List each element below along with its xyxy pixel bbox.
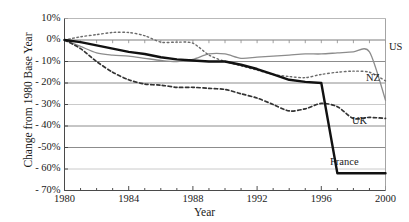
y-tick-label: - 10% <box>15 55 61 66</box>
series-label-france: France <box>330 156 359 167</box>
line-chart <box>0 0 409 222</box>
x-tick-label: 1996 <box>301 193 341 204</box>
y-tick-label: - 40% <box>15 119 61 130</box>
series-line-nz <box>65 32 386 81</box>
data-series <box>65 32 386 173</box>
y-tick-label: - 20% <box>15 76 61 87</box>
series-label-uk: UK <box>352 115 367 126</box>
y-tick-label: 10% <box>15 12 61 23</box>
x-tick-label: 1992 <box>237 193 277 204</box>
series-label-us: US <box>389 41 402 52</box>
y-tick-label: -50% <box>15 141 61 152</box>
chart-container: Change from 1980 Base Year Year 10%0%- 1… <box>0 0 409 222</box>
x-tick-label: 2000 <box>366 193 406 204</box>
x-tick-label: 1984 <box>109 193 149 204</box>
x-axis-title: Year <box>0 206 409 218</box>
x-tick-label: 1988 <box>173 193 213 204</box>
x-tick-label: 1980 <box>45 193 85 204</box>
series-line-uk <box>65 40 386 119</box>
y-tick-label: - 60% <box>15 162 61 173</box>
y-tick-label: 0% <box>15 33 61 44</box>
series-label-nz: NZ <box>366 72 380 83</box>
y-tick-label: - 30% <box>15 98 61 109</box>
